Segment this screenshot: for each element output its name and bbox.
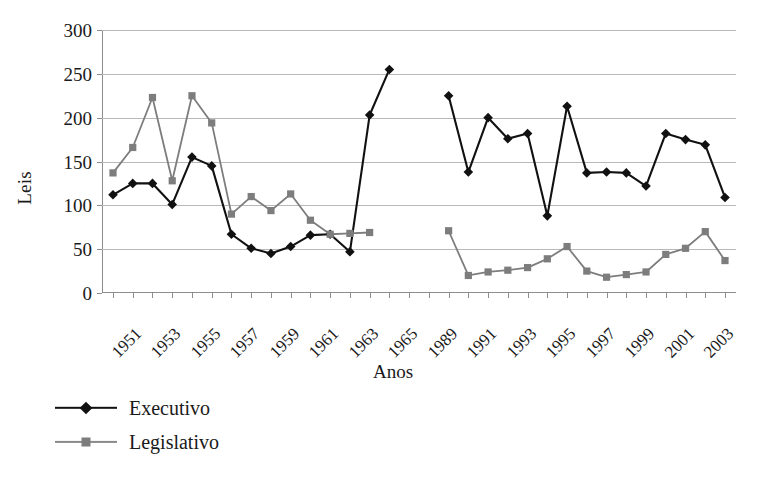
diamond-marker-icon	[720, 193, 730, 203]
diamond-marker-icon	[543, 211, 553, 221]
x-tick-mark	[271, 293, 272, 298]
series-line	[449, 96, 725, 216]
x-tick-mark	[231, 293, 232, 298]
x-axis-title-text: Anos	[373, 361, 413, 383]
diamond-marker-icon	[681, 135, 691, 145]
square-marker-icon	[248, 193, 255, 200]
x-axis-tick-labels: 1951195319551957195919611963196519891991…	[102, 300, 736, 360]
x-tick-mark	[133, 293, 134, 298]
x-tick-mark	[251, 293, 252, 298]
x-tick-mark	[192, 293, 193, 298]
y-axis-title-text: Leis	[14, 128, 36, 248]
x-tick-mark	[686, 293, 687, 298]
square-marker-icon	[721, 257, 728, 264]
diamond-marker-icon	[365, 110, 375, 120]
diamond-marker-icon	[582, 168, 592, 178]
legend-item-executivo: Executivo	[55, 391, 219, 425]
square-marker-icon	[82, 438, 91, 447]
square-marker-icon	[524, 264, 531, 271]
square-marker-icon	[662, 251, 669, 258]
diamond-marker-icon	[207, 161, 217, 171]
x-tick-mark	[152, 293, 153, 298]
diamond-marker-icon	[80, 402, 93, 415]
legend-key-executivo	[55, 399, 117, 417]
y-tick-label: 100	[32, 196, 92, 215]
square-marker-icon	[287, 190, 294, 197]
square-marker-icon	[149, 94, 156, 101]
square-marker-icon	[484, 268, 491, 275]
y-tick-label: 250	[32, 64, 92, 83]
diamond-marker-icon	[700, 140, 710, 150]
y-tick-label: 200	[32, 108, 92, 127]
square-marker-icon	[109, 169, 116, 176]
legend-item-legislativo: Legislativo	[55, 425, 219, 459]
x-tick-mark	[330, 293, 331, 298]
x-tick-mark	[429, 293, 430, 298]
series-line	[113, 96, 370, 235]
y-tick-label: 150	[32, 152, 92, 171]
x-tick-mark	[567, 293, 568, 298]
series-legislativo	[109, 92, 728, 281]
square-marker-icon	[208, 119, 215, 126]
diamond-marker-icon	[523, 129, 533, 139]
square-marker-icon	[188, 92, 195, 99]
square-marker-icon	[307, 217, 314, 224]
x-tick-mark	[705, 293, 706, 298]
x-tick-mark	[172, 293, 173, 298]
y-tick-label: 300	[32, 21, 92, 40]
square-marker-icon	[228, 211, 235, 218]
plot-area: 300250200150100500	[102, 30, 736, 293]
y-tick-label: 50	[32, 240, 92, 259]
diamond-marker-icon	[661, 129, 671, 139]
square-marker-icon	[169, 177, 176, 184]
square-marker-icon	[445, 227, 452, 234]
legend-label-executivo: Executivo	[129, 398, 210, 418]
y-tick-mark	[97, 293, 102, 294]
square-marker-icon	[563, 243, 570, 250]
x-tick-label: 2003	[724, 300, 762, 338]
x-tick-mark	[587, 293, 588, 298]
x-tick-mark	[449, 293, 450, 298]
diamond-marker-icon	[602, 167, 612, 177]
y-tick-label: 0	[32, 284, 92, 303]
x-tick-mark	[409, 293, 410, 298]
square-marker-icon	[267, 207, 274, 214]
square-marker-icon	[327, 231, 334, 238]
x-tick-mark	[488, 293, 489, 298]
diamond-marker-icon	[464, 167, 474, 177]
diamond-marker-icon	[562, 101, 572, 111]
x-tick-mark	[468, 293, 469, 298]
square-marker-icon	[682, 245, 689, 252]
x-tick-mark	[291, 293, 292, 298]
square-marker-icon	[129, 144, 136, 151]
legend-label-legislativo: Legislativo	[129, 432, 219, 452]
square-marker-icon	[465, 272, 472, 279]
series-executivo	[108, 65, 730, 259]
diamond-marker-icon	[266, 249, 276, 259]
x-tick-mark	[725, 293, 726, 298]
x-axis-title: Anos	[0, 361, 766, 383]
diamond-marker-icon	[187, 152, 197, 162]
diamond-marker-icon	[385, 65, 395, 75]
chart-container: Leis 300250200150100500 1951195319551957…	[0, 0, 766, 486]
diamond-marker-icon	[286, 242, 296, 252]
diamond-marker-icon	[128, 179, 138, 189]
square-marker-icon	[623, 271, 630, 278]
diamond-marker-icon	[306, 230, 316, 240]
x-tick-mark	[113, 293, 114, 298]
x-tick-mark	[666, 293, 667, 298]
x-tick-mark	[626, 293, 627, 298]
x-tick-mark	[389, 293, 390, 298]
diamond-marker-icon	[108, 190, 118, 200]
square-marker-icon	[346, 230, 353, 237]
square-marker-icon	[544, 255, 551, 262]
x-tick-mark	[607, 293, 608, 298]
x-tick-mark	[212, 293, 213, 298]
series-layer	[102, 30, 736, 293]
square-marker-icon	[504, 267, 511, 274]
square-marker-icon	[603, 274, 610, 281]
square-marker-icon	[583, 267, 590, 274]
x-tick-mark	[508, 293, 509, 298]
x-tick-mark	[528, 293, 529, 298]
square-marker-icon	[702, 228, 709, 235]
